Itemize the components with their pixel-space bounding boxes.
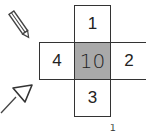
cell-bottom: 3 [74,79,111,117]
cell-top-label: 1 [88,14,97,34]
cell-left-label: 4 [52,51,61,71]
bottom-mark: 1 [110,124,116,131]
cell-bottom-label: 3 [88,88,97,108]
pencil-icon [8,8,32,42]
cell-center-label: 10 [80,49,105,73]
cell-right-label: 2 [124,51,133,71]
cell-top: 1 [74,5,111,43]
cell-left: 4 [39,42,75,80]
cell-center: 10 [74,42,111,80]
cell-right: 2 [110,42,146,80]
arrow-icon [0,82,36,114]
